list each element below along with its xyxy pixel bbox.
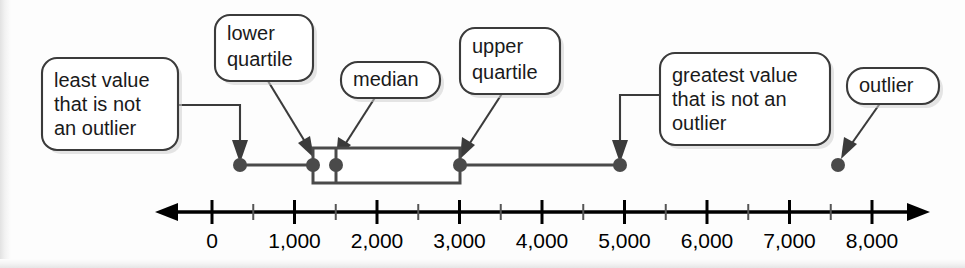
callout-greatest-value[interactable]: greatest value that is not an outlier [660, 53, 834, 149]
axis-arrow-left [155, 203, 178, 221]
callout-least-value[interactable]: least value that is not an outlier [42, 58, 182, 154]
callout-lower-quartile[interactable]: lower quartile [215, 15, 317, 85]
axis-tick-label: 1,000 [268, 229, 321, 252]
callout-greatest-value-line-2: that is not an [672, 88, 787, 110]
leader-outlier [841, 102, 881, 159]
number-line-axis: 0 1,000 2,000 3,000 4,000 5,000 6,000 7,… [155, 200, 930, 252]
box-plot-diagram: 0 1,000 2,000 3,000 4,000 5,000 6,000 7,… [0, 0, 965, 268]
leader-greatest-value [612, 95, 660, 163]
upper-whisker-end-dot [613, 158, 627, 172]
axis-tick-label: 8,000 [846, 229, 899, 252]
axis-arrow-right [907, 203, 930, 221]
leader-upper-quartile [460, 89, 505, 159]
callout-median[interactable]: median [341, 62, 444, 102]
callout-greatest-value-line-3: outlier [672, 112, 727, 134]
lower-whisker-end-dot [233, 158, 247, 172]
callout-lower-quartile-line-1: lower [227, 22, 275, 44]
upper-quartile-dot [453, 158, 467, 172]
callout-median-line-1: median [353, 68, 419, 90]
axis-tick-label: 2,000 [351, 229, 404, 252]
box-plot-glyph [233, 148, 845, 183]
callout-least-value-line-2: that is not [54, 93, 141, 115]
lower-quartile-dot [306, 158, 320, 172]
callout-least-value-line-1: least value [54, 69, 150, 91]
callout-upper-quartile[interactable]: upper quartile [460, 28, 564, 98]
axis-tick-label: 0 [206, 229, 218, 252]
axis-tick-labels: 0 1,000 2,000 3,000 4,000 5,000 6,000 7,… [206, 229, 898, 252]
callout-outlier[interactable]: outlier [847, 68, 943, 108]
leader-lower-quartile [268, 81, 314, 158]
callout-least-value-line-3: an outlier [54, 117, 137, 139]
axis-tick-label: 5,000 [598, 229, 651, 252]
axis-tick-label: 3,000 [433, 229, 486, 252]
leader-least-value [179, 105, 248, 163]
axis-tick-label: 7,000 [763, 229, 816, 252]
axis-tick-label: 4,000 [516, 229, 569, 252]
median-dot [329, 158, 343, 172]
axis-tick-label: 6,000 [681, 229, 734, 252]
callout-upper-quartile-line-2: quartile [472, 61, 538, 83]
callout-outlier-line-1: outlier [859, 74, 914, 96]
callout-upper-quartile-line-1: upper [472, 35, 523, 57]
callout-lower-quartile-line-2: quartile [227, 48, 293, 70]
box-plot-figure: 0 1,000 2,000 3,000 4,000 5,000 6,000 7,… [0, 0, 965, 268]
callout-greatest-value-line-1: greatest value [672, 64, 798, 86]
outlier-dot [831, 158, 845, 172]
